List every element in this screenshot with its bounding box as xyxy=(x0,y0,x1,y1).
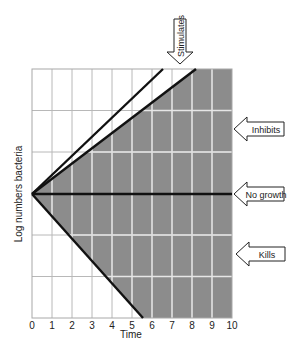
no-growth-callout: No growth xyxy=(234,182,287,206)
no-growth-label: No growth xyxy=(245,190,286,200)
x-tick-label: 1 xyxy=(49,320,55,331)
stimulates-callout: Stimulates xyxy=(167,14,193,64)
stimulates-label: Stimulates xyxy=(176,14,186,57)
inhibits-callout: Inhibits xyxy=(234,117,284,141)
x-tick-label: 2 xyxy=(69,320,75,331)
x-tick-label: 6 xyxy=(149,320,155,331)
kills-callout: Kills xyxy=(236,242,285,266)
x-tick-label: 7 xyxy=(169,320,175,331)
x-tick-label: 9 xyxy=(209,320,215,331)
y-axis-label: Log numbers bacteria xyxy=(13,145,24,242)
bacterial-growth-diagram: 012345678910 Time Log numbers bacteria S… xyxy=(0,0,300,362)
kills-label: Kills xyxy=(259,250,276,260)
x-axis-label: Time xyxy=(120,329,142,340)
x-tick-label: 10 xyxy=(226,320,238,331)
x-tick-label: 8 xyxy=(189,320,195,331)
x-tick-label: 0 xyxy=(29,320,35,331)
inhibits-label: Inhibits xyxy=(252,125,281,135)
x-tick-label: 3 xyxy=(89,320,95,331)
x-tick-label: 4 xyxy=(109,320,115,331)
